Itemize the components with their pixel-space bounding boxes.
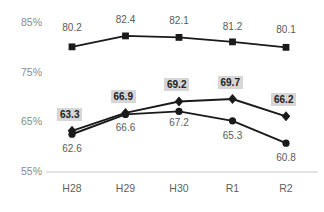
marker-square-R1 — [229, 38, 236, 45]
marker-square-H28 — [69, 43, 76, 50]
data-label-series-squares-R1: 81.2 — [213, 21, 253, 32]
x-axis-tick-H29: H29 — [104, 182, 148, 194]
y-axis-tick-55: 55% — [2, 165, 42, 177]
chart-container: 55%65%75%85% H28H29H30R1R2 80.282.482.18… — [0, 0, 324, 212]
marker-diamond-R1 — [228, 94, 237, 104]
marker-diamond-H30 — [175, 96, 184, 106]
x-axis-tick-H30: H30 — [157, 182, 201, 194]
y-axis-tick-65: 65% — [2, 115, 42, 127]
data-label-series-circles-H28: 62.6 — [52, 143, 92, 154]
data-label-series-squares-H29: 82.4 — [106, 14, 146, 25]
marker-square-H29 — [122, 33, 129, 40]
marker-circle-H30 — [175, 108, 182, 115]
x-axis-tick-R1: R1 — [211, 182, 255, 194]
data-label-series-squares-H30: 82.1 — [159, 15, 199, 26]
data-label-series-squares-H28: 80.2 — [52, 22, 92, 33]
y-axis-tick-85: 85% — [2, 16, 42, 28]
data-label-series-circles-H30: 67.2 — [159, 117, 199, 128]
data-label-series-circles-R1: 65.3 — [213, 130, 253, 141]
marker-diamond-R2 — [282, 111, 291, 121]
x-axis-tick-R2: R2 — [264, 182, 308, 194]
y-axis-tick-75: 75% — [2, 66, 42, 78]
data-label-series-diamonds-H29: 66.9 — [111, 90, 136, 103]
marker-circle-R1 — [229, 117, 236, 124]
data-label-series-circles-R2: 60.8 — [266, 152, 306, 163]
data-label-series-diamonds-R2: 66.2 — [271, 93, 296, 106]
data-label-series-diamonds-H28: 63.3 — [57, 108, 82, 121]
marker-circle-R2 — [282, 140, 289, 147]
data-label-series-circles-H29: 66.6 — [106, 122, 146, 133]
marker-square-R2 — [283, 44, 290, 51]
marker-circle-H28 — [68, 131, 75, 138]
data-label-series-squares-R2: 80.1 — [266, 24, 306, 35]
data-label-series-diamonds-R1: 69.7 — [218, 76, 243, 89]
marker-circle-H29 — [122, 111, 129, 118]
x-axis-tick-H28: H28 — [50, 182, 94, 194]
marker-square-H30 — [176, 34, 183, 41]
data-label-series-diamonds-H30: 69.2 — [164, 78, 189, 91]
